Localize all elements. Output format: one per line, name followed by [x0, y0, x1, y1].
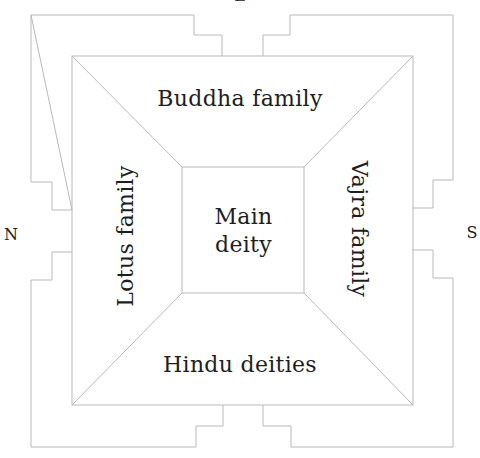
region-label-hindu-deities: Hindu deities [140, 354, 340, 376]
region-label-main-deity: Main deity [182, 203, 305, 259]
region-label-vajra-family: Vajra family [348, 154, 370, 304]
diagonal-top-left [72, 56, 182, 167]
main-deity-line-1: Main [182, 203, 305, 231]
direction-label-top: E [228, 0, 252, 4]
diagonal-top-right [304, 56, 413, 167]
main-deity-line-2: deity [182, 231, 305, 259]
direction-label-north: N [3, 227, 19, 243]
region-label-buddha-family: Buddha family [140, 88, 340, 110]
region-label-lotus-family: Lotus family [115, 161, 137, 311]
direction-label-south: S [464, 225, 480, 241]
diagonal-bottom-right [304, 293, 413, 405]
